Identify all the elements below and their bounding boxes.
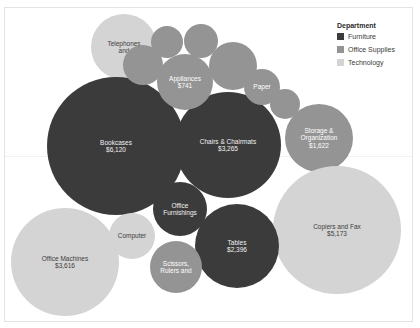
bubble-unlabeled-4[interactable]: [209, 42, 257, 90]
bubble-label: Office Machines $3,616: [41, 255, 89, 269]
plot-area: Telephones andBookcases $6,120Chairs & C…: [4, 7, 413, 322]
bubble-label: Tables $2,396: [226, 239, 248, 253]
bubble-unlabeled-2[interactable]: [151, 26, 183, 58]
bubble-copiers-and-fax[interactable]: Copiers and Fax $5,173: [273, 166, 401, 294]
bubble-office-machines[interactable]: Office Machines $3,616: [11, 208, 119, 316]
bubble-computer[interactable]: Computer: [109, 213, 155, 259]
bubble-label: Computer: [117, 232, 148, 239]
legend-item-office-supplies[interactable]: Office Supplies: [337, 45, 413, 54]
bubble-label: Storage & Organization $1,622: [300, 127, 339, 148]
legend-label: Furniture: [348, 33, 376, 40]
bubble-label: Chairs & Chairmats $3,265: [199, 138, 257, 152]
legend-swatch-icon: [337, 46, 344, 53]
bubble-label: Bookcases $6,120: [99, 139, 133, 153]
legend-swatch-icon: [337, 33, 344, 40]
bubble-tables[interactable]: Tables $2,396: [195, 204, 279, 288]
legend-label: Office Supplies: [348, 46, 395, 53]
bubble-label: Scissors, Rulers and: [159, 260, 192, 274]
legend: Department FurnitureOffice SuppliesTechn…: [337, 22, 413, 71]
legend-items: FurnitureOffice SuppliesTechnology: [337, 32, 413, 67]
bubble-scissors-rulers[interactable]: Scissors, Rulers and: [150, 241, 202, 293]
bubble-office-furnishings[interactable]: Office Furnishings: [153, 182, 207, 236]
legend-item-furniture[interactable]: Furniture: [337, 32, 413, 41]
bubble-label: Appliances $741: [168, 75, 202, 89]
bubble-unlabeled-5[interactable]: [270, 89, 300, 119]
legend-label: Technology: [348, 59, 383, 66]
bubble-label: Copiers and Fax $5,173: [312, 223, 362, 237]
bubble-appliances[interactable]: Appliances $741: [157, 54, 213, 110]
legend-swatch-icon: [337, 59, 344, 66]
bubble-chart-root: Telephones andBookcases $6,120Chairs & C…: [0, 0, 420, 328]
bubble-label: Paper: [252, 83, 271, 90]
legend-title: Department: [337, 22, 413, 29]
legend-item-technology[interactable]: Technology: [337, 58, 413, 67]
bubble-label: Office Furnishings: [162, 202, 198, 216]
